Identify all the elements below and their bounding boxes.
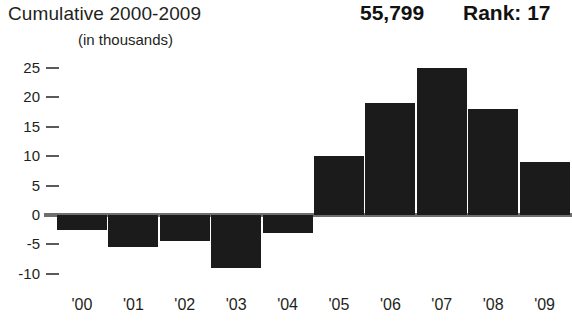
y-tick-label: 0: [4, 207, 40, 222]
x-tick-label: '09: [519, 296, 571, 314]
y-tick-label: 25: [4, 60, 40, 75]
y-tick-mark: [46, 126, 59, 128]
y-tick-label: -5: [4, 236, 40, 251]
y-tick-mark: [46, 67, 59, 69]
bar: [468, 109, 518, 215]
y-tick-mark: [46, 273, 59, 275]
bar: [108, 215, 158, 247]
x-tick-label: '00: [56, 296, 108, 314]
x-tick-label: '08: [467, 296, 519, 314]
bar-chart: 2520151050-5-10 '00'01'02'03'04'05'06'07…: [0, 0, 572, 325]
x-tick-label: '03: [210, 296, 262, 314]
x-tick-label: '01: [107, 296, 159, 314]
y-tick-label: 5: [4, 178, 40, 193]
x-tick-label: '04: [262, 296, 314, 314]
bar: [314, 156, 364, 215]
x-tick-label: '05: [313, 296, 365, 314]
bar: [160, 215, 210, 241]
y-tick-label: 10: [4, 148, 40, 163]
y-tick-label: 20: [4, 89, 40, 104]
bar: [263, 215, 313, 233]
y-tick-label: -10: [4, 266, 40, 281]
bar: [57, 215, 107, 230]
y-tick-mark: [46, 155, 59, 157]
x-tick-label: '07: [416, 296, 468, 314]
bar: [417, 68, 467, 215]
bar: [365, 103, 415, 215]
y-tick-mark: [46, 96, 59, 98]
y-tick-mark: [46, 243, 59, 245]
bar: [520, 162, 570, 215]
x-tick-label: '02: [159, 296, 211, 314]
y-tick-label: 15: [4, 119, 40, 134]
x-tick-label: '06: [364, 296, 416, 314]
y-tick-mark: [46, 185, 59, 187]
bar: [211, 215, 261, 268]
